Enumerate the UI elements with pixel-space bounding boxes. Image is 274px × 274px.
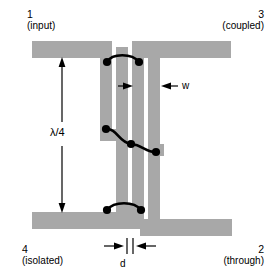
bond-pad-top-right [135,58,143,66]
bond-pad-bottom-left [103,206,111,214]
port-label-coupled: 3 (coupled) [222,8,264,32]
feedline-port2 [140,219,232,236]
w-arrowhead-left [161,83,171,90]
port2-role: (through) [223,255,264,267]
lambda-arrowhead-down [59,203,66,213]
port2-number: 2 [223,243,264,255]
lambda-arrowhead-up [59,57,66,67]
port4-number: 4 [22,243,63,255]
bond-pad-mid-center [127,140,135,148]
d-dimension [104,238,156,254]
coupled-strip-d [148,47,160,219]
bond-pad-mid-left [102,125,110,133]
port1-number: 1 [27,8,55,20]
d-dimension-label: d [120,258,126,270]
port1-role: (input) [27,20,55,32]
coupler-diagram: 1 (input) 3 (coupled) 4 (isolated) 2 (th… [0,0,274,274]
d-arrowhead-left [136,243,146,250]
bond-pad-top-left [103,58,111,66]
w-dimension-label: w [182,80,189,92]
coupled-strip-c [132,41,144,229]
coupler-schematic-svg [0,0,274,274]
d-arrowhead-right [114,243,124,250]
port3-role: (coupled) [222,20,264,32]
port-label-through: 2 (through) [223,243,264,267]
port4-role: (isolated) [22,255,63,267]
port-label-isolated: 4 (isolated) [22,243,63,267]
strip-b-bottom-step [116,205,136,217]
bond-pad-mid-right [152,148,160,156]
lambda-quarter-label: λ/4 [50,126,65,139]
bond-pad-bottom-right [137,206,145,214]
port3-number: 3 [222,8,264,20]
port-label-input: 1 (input) [27,8,55,32]
